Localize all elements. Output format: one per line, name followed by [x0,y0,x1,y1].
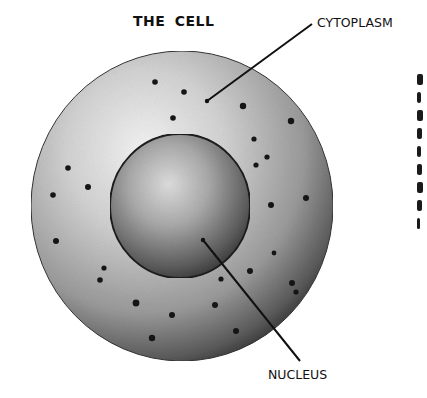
clipped-glyph [417,200,422,211]
clipped-glyph [417,74,423,85]
clipped-glyph [417,128,422,139]
clipped-glyph [417,110,423,121]
cytoplasm-leader-dot [205,99,209,103]
clipped-glyph [417,146,421,157]
clipped-glyph [417,92,421,103]
nucleus-label: NUCLEUS [268,367,327,382]
cell-illustration [0,0,427,398]
diagram-title: THE CELL [133,13,214,29]
clipped-glyph [417,218,420,229]
clipped-glyph [417,182,423,193]
nucleus-leader-dot [201,238,205,242]
cell-diagram: THE CELL CYTOPLASM NUCLEUS [0,0,427,398]
clipped-glyph [417,164,422,175]
cytoplasm-label: CYTOPLASM [317,15,393,30]
nucleus [110,134,250,278]
